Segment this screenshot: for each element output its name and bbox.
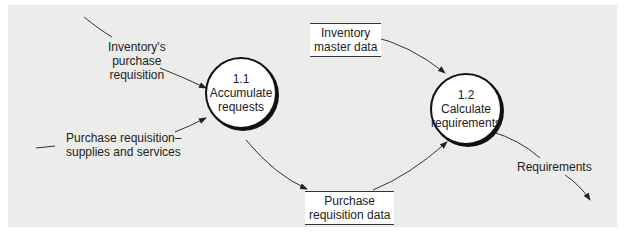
data-store-purchase-requisition[interactable]: Purchase requisition data: [305, 191, 394, 225]
store-label-line: Purchase: [309, 194, 390, 208]
store-label-line: requisition data: [309, 208, 390, 222]
process-1-1[interactable]: 1.1 Accumulate requests: [205, 57, 277, 129]
flow-label-line: supplies and services: [66, 145, 181, 159]
store-label-line: Inventory: [314, 26, 377, 40]
process-name-line: Accumulate: [210, 86, 273, 100]
flow-label-line: requisition: [108, 68, 166, 82]
data-store-inventory-master[interactable]: Inventory master data: [310, 23, 381, 57]
process-name-line: requirements: [431, 116, 501, 130]
process-id: 1.1: [233, 72, 250, 86]
flow-label-line: Purchase requisition–: [66, 131, 181, 145]
flow-label-requirements: Requirements: [517, 160, 592, 174]
flow-label-line: Requirements: [517, 160, 592, 174]
process-1-2[interactable]: 1.2 Calculate requirements: [430, 73, 502, 145]
process-id: 1.2: [458, 88, 475, 102]
flow-label-line: purchase: [108, 54, 166, 68]
flow-label-inventory-requisition: Inventory's purchase requisition: [108, 40, 166, 82]
flow-label-supplies-services: Purchase requisition– supplies and servi…: [66, 131, 181, 159]
process-name-line: requests: [218, 100, 264, 114]
flow-label-line: Inventory's: [108, 40, 166, 54]
process-name-line: Calculate: [441, 102, 491, 116]
store-label-line: master data: [314, 40, 377, 54]
